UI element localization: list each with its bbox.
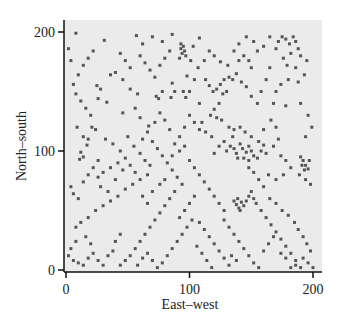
data-point — [240, 201, 243, 204]
data-point — [139, 152, 142, 155]
data-point — [149, 226, 152, 229]
data-point — [231, 78, 234, 81]
data-point — [178, 135, 181, 138]
data-point — [208, 188, 211, 191]
data-point — [193, 166, 196, 169]
data-point — [250, 190, 253, 193]
data-point — [252, 40, 255, 43]
data-point — [223, 78, 226, 81]
data-point — [288, 42, 291, 45]
data-point — [262, 250, 265, 253]
data-point — [250, 95, 253, 98]
data-point — [124, 259, 127, 262]
data-point — [163, 119, 166, 122]
data-point — [240, 81, 243, 84]
data-point — [303, 73, 306, 76]
data-point — [97, 176, 100, 179]
data-point — [309, 250, 312, 253]
data-point — [99, 185, 102, 188]
data-point — [209, 114, 212, 117]
data-point — [94, 128, 97, 131]
data-point — [163, 57, 166, 60]
data-point — [193, 121, 196, 124]
data-point — [102, 204, 105, 207]
x-axis-ticks: 0100200 — [63, 272, 324, 297]
data-point — [82, 264, 85, 267]
data-point — [136, 264, 139, 267]
data-point — [293, 221, 296, 224]
data-point — [87, 173, 90, 176]
data-point — [107, 254, 110, 257]
data-point — [72, 83, 75, 86]
data-point — [272, 145, 275, 148]
data-point — [99, 88, 102, 91]
data-point — [212, 90, 215, 93]
data-point — [153, 121, 156, 124]
scatter-chart: 0100200 0100200 East–west North–south — [0, 0, 341, 329]
data-point — [242, 54, 245, 57]
data-point — [156, 147, 159, 150]
data-point — [97, 259, 100, 262]
data-point — [225, 90, 228, 93]
data-point — [213, 195, 216, 198]
data-point — [151, 259, 154, 262]
data-point — [282, 173, 285, 176]
data-point — [245, 35, 248, 38]
data-point — [294, 259, 297, 262]
data-point — [104, 138, 107, 141]
data-point — [151, 35, 154, 38]
x-tick-label: 200 — [303, 282, 324, 297]
data-point — [294, 40, 297, 43]
data-point — [69, 59, 72, 62]
data-point — [147, 125, 150, 128]
data-point — [275, 47, 278, 50]
data-point — [286, 64, 289, 67]
data-point — [287, 78, 290, 81]
data-point — [139, 54, 142, 57]
data-point — [223, 209, 226, 212]
data-point — [119, 52, 122, 55]
data-point — [257, 178, 260, 181]
data-point — [171, 82, 174, 85]
data-point — [74, 240, 77, 243]
data-point — [262, 144, 265, 147]
data-point — [158, 64, 161, 67]
data-point — [144, 61, 147, 64]
data-point — [92, 50, 95, 53]
data-point — [141, 42, 144, 45]
data-point — [105, 101, 108, 104]
data-point — [198, 221, 201, 224]
data-point — [226, 64, 229, 67]
data-point — [124, 188, 127, 191]
data-point — [151, 140, 154, 143]
data-point — [173, 142, 176, 145]
data-point — [228, 264, 231, 267]
data-point — [247, 195, 250, 198]
data-point — [242, 157, 245, 160]
data-point — [247, 159, 250, 162]
data-point — [228, 126, 231, 129]
data-point — [277, 40, 280, 43]
data-point — [144, 233, 147, 236]
data-point — [235, 152, 238, 155]
data-point — [171, 247, 174, 250]
data-point — [256, 157, 259, 160]
data-point — [124, 157, 127, 160]
data-point — [215, 88, 218, 91]
data-point — [146, 252, 149, 255]
data-point — [310, 126, 313, 129]
data-point — [223, 140, 226, 143]
data-point — [163, 178, 166, 181]
data-point — [247, 59, 250, 62]
data-point — [198, 102, 201, 105]
data-point — [231, 135, 234, 138]
data-point — [82, 135, 85, 138]
data-point — [284, 38, 287, 41]
data-point — [92, 166, 95, 169]
data-point — [178, 57, 181, 60]
data-point — [114, 240, 117, 243]
data-point — [178, 216, 181, 219]
data-point — [279, 154, 282, 157]
data-point — [178, 150, 181, 153]
data-point — [195, 245, 198, 248]
